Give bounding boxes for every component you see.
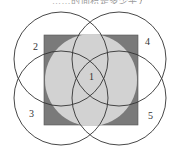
region-label-5: 5 — [148, 110, 153, 121]
region-label-3: 3 — [29, 108, 34, 119]
region-label-4: 4 — [145, 36, 150, 47]
region-label-2: 2 — [33, 41, 38, 52]
venn-square-diagram: 12435 — [0, 0, 174, 154]
region-label-1: 1 — [89, 71, 94, 82]
